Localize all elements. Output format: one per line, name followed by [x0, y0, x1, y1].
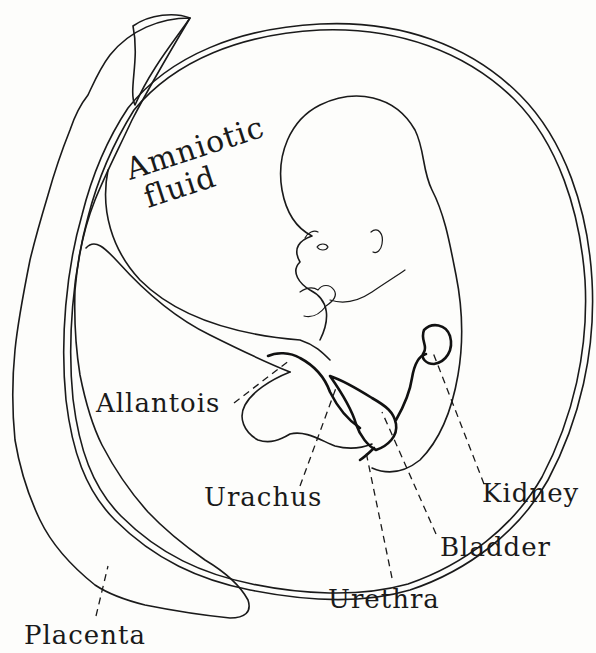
amniotic-sac-inner	[71, 30, 586, 593]
fetus-outline	[281, 96, 462, 472]
label-allantois: Allantois	[95, 388, 220, 418]
umbilical-cord-outline	[86, 244, 290, 372]
umbilical-cord-outline	[106, 170, 330, 360]
leader-urachus	[300, 388, 336, 486]
leader-bladder	[382, 412, 436, 534]
fetal-urinary-diagram: Amniotic fluid Allantois Urachus Kidney …	[0, 0, 596, 653]
fetus-ear	[371, 230, 382, 253]
fetus-leg	[242, 372, 372, 448]
label-urethra: Urethra	[328, 584, 440, 614]
label-urachus: Urachus	[204, 482, 322, 512]
fetus-eye	[317, 244, 328, 250]
placenta-outline	[133, 15, 190, 105]
ureter	[396, 354, 426, 420]
allantois-duct	[268, 353, 360, 428]
bladder	[330, 376, 396, 450]
fetus-arm	[330, 270, 405, 302]
amniotic-sac-outer	[64, 24, 593, 600]
fetus-hand	[300, 286, 335, 317]
label-bladder: Bladder	[440, 532, 551, 562]
kidney	[423, 325, 451, 364]
placenta-outline	[13, 18, 249, 618]
label-kidney: Kidney	[482, 478, 579, 508]
label-placenta: Placenta	[24, 620, 146, 650]
leader-allantois	[234, 360, 290, 403]
